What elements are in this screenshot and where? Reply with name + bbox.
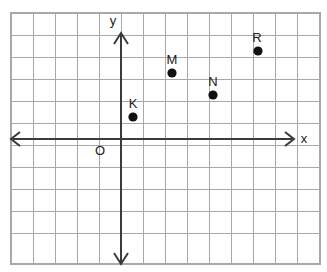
data-point-n: N: [208, 74, 217, 100]
data-point-m: M: [167, 52, 178, 78]
point-marker: [253, 46, 262, 55]
point-marker: [167, 68, 176, 77]
point-marker: [128, 112, 137, 121]
data-point-k: K: [128, 96, 137, 122]
origin-label: O: [95, 143, 105, 158]
point-label-k: K: [129, 96, 138, 111]
point-label-r: R: [252, 30, 261, 45]
coordinate-plane-figure: x y O K M N R: [0, 0, 327, 272]
data-point-r: R: [252, 30, 262, 56]
point-label-n: N: [208, 74, 217, 89]
x-axis-label: x: [301, 131, 308, 146]
point-label-m: M: [167, 52, 178, 67]
point-marker: [208, 90, 217, 99]
figure-background: [0, 0, 327, 272]
coordinate-plane-svg: x y O K M N R: [0, 0, 327, 272]
y-axis-label: y: [110, 13, 117, 28]
